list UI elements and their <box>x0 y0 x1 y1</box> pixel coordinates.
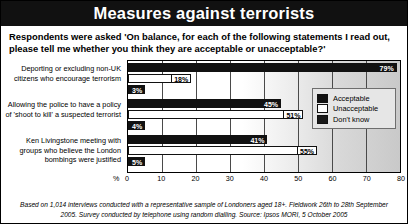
bar-value-label: 79% <box>377 63 397 72</box>
axis-unit-symbol: % <box>113 174 119 183</box>
title-bar: Measures against terrorists <box>1 1 407 26</box>
bar-value-label: 45% <box>261 99 281 108</box>
category-label-column: Deporting or excluding non-UK citizens w… <box>7 58 125 175</box>
bar-acc <box>128 63 397 72</box>
bar-value-label: 55% <box>297 146 317 155</box>
legend-item: Unacceptable <box>317 104 391 113</box>
category-label: Ken Livingstone meeting with groups who … <box>5 136 121 165</box>
category-label: Deporting or excluding non-UK citizens w… <box>5 64 121 83</box>
chart-poster: Measures against terrorists Respondents … <box>0 0 408 224</box>
axis-tick-label: 20 <box>192 174 200 183</box>
legend-label: Don't know <box>333 115 369 124</box>
bar-value-label: 41% <box>247 135 267 144</box>
source-footnote: Based on 1,014 interviews conducted with… <box>1 197 407 223</box>
axis-tick-label: 0 <box>125 174 129 183</box>
x-axis: 01020304050607080 <box>127 174 401 186</box>
category-label: Allowing the police to have a policy of … <box>5 100 121 119</box>
bar-unacc <box>128 146 315 155</box>
bar-value-label: 51% <box>283 110 303 119</box>
axis-tick-label: 40 <box>260 174 268 183</box>
legend-label: Unacceptable <box>333 104 378 113</box>
legend-swatch-icon <box>317 94 328 103</box>
axis-tick-label: 50 <box>294 174 302 183</box>
legend-item: Don't know <box>317 115 391 124</box>
chart-legend: AcceptableUnacceptableDon't know <box>312 88 396 129</box>
bar-value-label: 5% <box>129 157 145 166</box>
chart-container: Deporting or excluding non-UK citizens w… <box>1 58 407 197</box>
axis-tick-label: 30 <box>226 174 234 183</box>
page-title: Measures against terrorists <box>94 5 315 22</box>
bar-value-label: 18% <box>171 74 191 83</box>
bar-value-label: 3% <box>129 85 145 94</box>
axis-tick-label: 60 <box>329 174 337 183</box>
legend-swatch-icon <box>317 104 328 113</box>
axis-tick-label: 80 <box>397 174 405 183</box>
bar-acc <box>128 99 281 108</box>
legend-swatch-icon <box>317 115 328 124</box>
legend-item: Acceptable <box>317 94 391 103</box>
legend-label: Acceptable <box>333 94 370 103</box>
subtitle-question: Respondents were asked 'On balance, for … <box>1 26 407 58</box>
bar-value-label: 4% <box>129 121 145 130</box>
bar-unacc <box>128 110 301 119</box>
axis-tick-label: 70 <box>363 174 371 183</box>
axis-tick-label: 10 <box>157 174 165 183</box>
bar-chart: Deporting or excluding non-UK citizens w… <box>7 58 401 197</box>
